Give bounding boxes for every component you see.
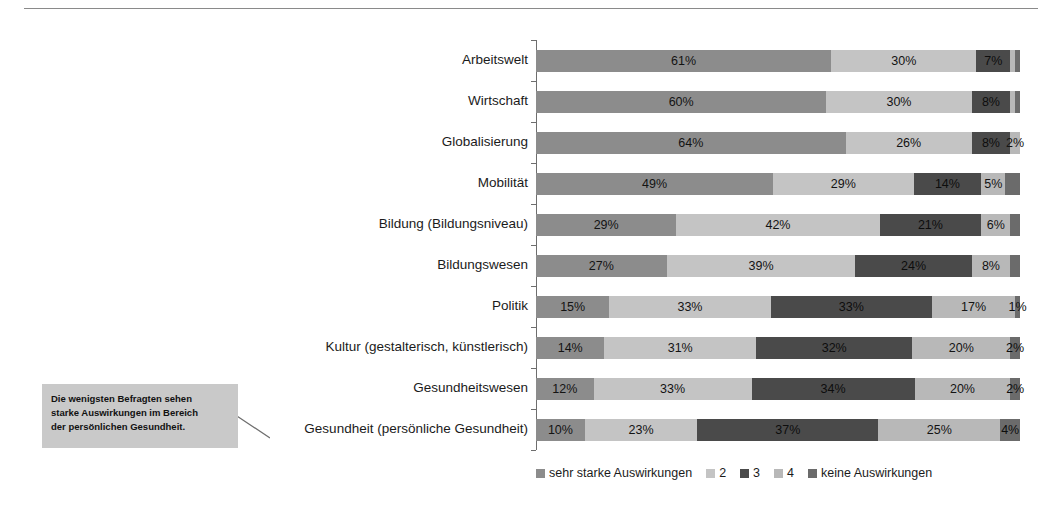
bar-segment: 25%: [878, 419, 1000, 441]
legend-swatch-icon: [536, 469, 545, 478]
bar-segment: 39%: [667, 255, 856, 277]
bar-segment-label: 17%: [961, 300, 986, 314]
bar-segment-label: 7%: [984, 54, 1002, 68]
axis-tick: [531, 368, 536, 369]
legend-item[interactable]: sehr starke Auswirkungen: [536, 466, 692, 480]
bar-segment: 5%: [981, 173, 1005, 195]
bar-segment-label: 8%: [982, 95, 1000, 109]
axis-tick: [531, 204, 536, 205]
bar-segment-label: 2%: [1006, 382, 1024, 396]
bar-segment-label: 33%: [660, 382, 685, 396]
bar-segment-label: 10%: [548, 423, 573, 437]
bar-segment: 24%: [855, 255, 971, 277]
bar-segment: 32%: [756, 337, 912, 359]
bar-segment: 14%: [914, 173, 982, 195]
bar-segment-label: 5%: [984, 177, 1002, 191]
bar-segment: 30%: [831, 50, 976, 72]
chart-legend: sehr starke Auswirkungen234keine Auswirk…: [536, 466, 1036, 480]
bar-segment: 61%: [536, 50, 831, 72]
bar-segment-label: 30%: [891, 54, 916, 68]
category-label: Wirtschaft: [0, 93, 528, 108]
legend-swatch-icon: [740, 469, 749, 478]
bar-segment: 29%: [773, 173, 913, 195]
bar-segment-label: 8%: [982, 259, 1000, 273]
bar-segment-label: 4%: [1001, 423, 1019, 437]
bar-segment-label: 32%: [822, 341, 847, 355]
bar-segment-label: 14%: [558, 341, 583, 355]
bar-row: 14%31%32%20%2%: [536, 337, 1020, 359]
bar-segment: 26%: [846, 132, 972, 154]
bar-row: 64%26%8%2%: [536, 132, 1020, 154]
axis-tick: [531, 450, 536, 451]
legend-item[interactable]: keine Auswirkungen: [808, 466, 932, 480]
bar-segment-label: 23%: [629, 423, 654, 437]
bar-segment-label: 8%: [982, 136, 1000, 150]
bar-row: 15%33%33%17%1%: [536, 296, 1020, 318]
legend-label: sehr starke Auswirkungen: [549, 466, 692, 480]
bar-segment: 29%: [536, 214, 676, 236]
bar-segment: 30%: [826, 91, 971, 113]
bar-segment: 8%: [972, 255, 1011, 277]
legend-item[interactable]: 3: [740, 466, 760, 480]
bar-segment: [1015, 50, 1020, 72]
bar-row: 60%30%8%: [536, 91, 1020, 113]
bar-segment: 14%: [536, 337, 604, 359]
bar-segment: 21%: [880, 214, 982, 236]
bar-segment: 10%: [536, 419, 585, 441]
bar-segment: 60%: [536, 91, 826, 113]
legend-label: 4: [787, 466, 794, 480]
bar-row: 49%29%14%5%: [536, 173, 1020, 195]
axis-tick: [531, 40, 536, 41]
bar-segment-label: 25%: [927, 423, 952, 437]
bar-segment: 2%: [1010, 132, 1020, 154]
bar-row: 27%39%24%8%: [536, 255, 1020, 277]
legend-swatch-icon: [808, 469, 817, 478]
bar-segment-label: 14%: [935, 177, 960, 191]
bar-segment-label: 30%: [886, 95, 911, 109]
axis-tick: [531, 81, 536, 82]
bar-segment: [1010, 255, 1020, 277]
category-label: Globalisierung: [0, 134, 528, 149]
bar-segment-label: 20%: [949, 341, 974, 355]
bar-segment: 7%: [976, 50, 1010, 72]
bar-segment-label: 2%: [1006, 341, 1024, 355]
bar-segment: 4%: [1000, 419, 1020, 441]
category-label: Kultur (gestalterisch, künstlerisch): [0, 339, 528, 354]
bar-segment-label: 64%: [678, 136, 703, 150]
bar-segment: 33%: [609, 296, 770, 318]
bar-segment-label: 49%: [642, 177, 667, 191]
bar-segment: 17%: [932, 296, 1015, 318]
bar-segment-label: 6%: [987, 218, 1005, 232]
bar-segment-label: 29%: [594, 218, 619, 232]
legend-swatch-icon: [706, 469, 715, 478]
legend-item[interactable]: 2: [706, 466, 726, 480]
bar-segment: 8%: [972, 132, 1011, 154]
bar-segment-label: 21%: [918, 218, 943, 232]
bar-segment: 20%: [915, 378, 1011, 400]
bar-segment-label: 1%: [1009, 300, 1027, 314]
bar-row: 10%23%37%25%4%: [536, 419, 1020, 441]
bar-segment-label: 33%: [677, 300, 702, 314]
bar-segment: [1010, 214, 1020, 236]
axis-tick: [531, 245, 536, 246]
bar-segment: 42%: [676, 214, 879, 236]
bar-segment-label: 34%: [821, 382, 846, 396]
category-label: Bildung (Bildungsniveau): [0, 216, 528, 231]
legend-item[interactable]: 4: [774, 466, 794, 480]
bar-segment: 33%: [594, 378, 752, 400]
bar-segment-label: 15%: [560, 300, 585, 314]
axis-tick: [531, 122, 536, 123]
bar-segment: 64%: [536, 132, 846, 154]
bar-segment-label: 24%: [901, 259, 926, 273]
legend-swatch-icon: [774, 469, 783, 478]
legend-label: keine Auswirkungen: [821, 466, 932, 480]
bar-segment: 33%: [771, 296, 932, 318]
bar-segment: 27%: [536, 255, 667, 277]
callout-line-2: starke Auswirkungen im Bereich: [51, 406, 229, 420]
bar-segment: 31%: [604, 337, 756, 359]
bar-row: 61%30%7%: [536, 50, 1020, 72]
category-label: Politik: [0, 298, 528, 313]
bar-segment: 8%: [972, 91, 1011, 113]
bar-segment: 2%: [1010, 378, 1020, 400]
bar-segment-label: 60%: [669, 95, 694, 109]
